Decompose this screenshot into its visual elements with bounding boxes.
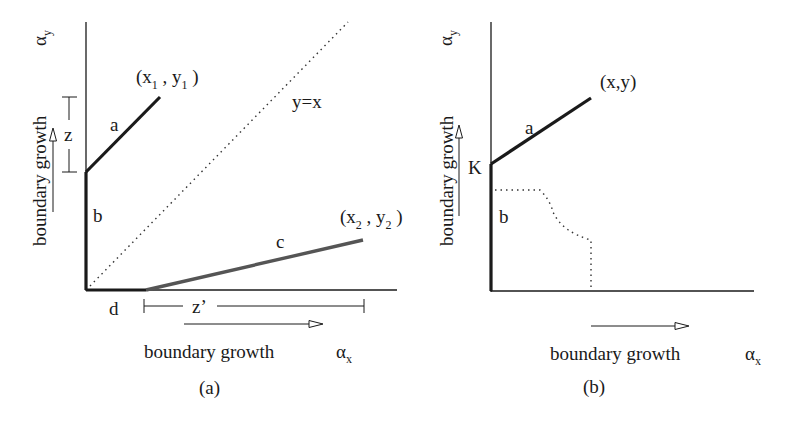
svg-text:αy: αy — [435, 30, 460, 46]
panel-a-diagonal-label: y=x — [292, 91, 322, 112]
panel-b-point-label: (x,y) — [600, 71, 636, 93]
svg-text:boundary growth: boundary growth — [436, 115, 457, 246]
panel-a-y-axis-symbol: αy — [29, 30, 54, 46]
panel-b-k-label: K — [468, 157, 482, 178]
panel-b-right-arrow-icon — [591, 323, 689, 330]
panel-a-label-b: b — [93, 205, 103, 226]
svg-text:αy: αy — [29, 30, 54, 46]
panel-a-segment-c — [146, 240, 363, 290]
panel-a-x-axis-title: boundary growth — [144, 341, 275, 362]
panel-a-up-arrow-icon — [50, 128, 57, 212]
panel-a-segment-a — [86, 97, 160, 172]
panel-a-z-label: z — [64, 124, 72, 145]
panel-b-y-axis-symbol: αy — [435, 30, 460, 46]
panel-a-y-axis-title: boundary growth — [29, 115, 50, 246]
svg-text:boundary growth: boundary growth — [29, 115, 50, 246]
panel-a-z-prime-label: z’ — [192, 296, 207, 317]
panel-b: a b K (x,y) boundary growth αy boundary … — [435, 22, 761, 398]
panel-a-label-a: a — [110, 114, 119, 135]
panel-a-label-c: c — [276, 231, 284, 252]
panel-a-z-prime-bracket — [144, 299, 364, 313]
panel-b-caption: (b) — [583, 376, 605, 398]
panel-a-diagonal-line — [90, 22, 348, 286]
panel-a-point2-label: (x2 , y2 ) — [340, 206, 403, 232]
figure: z z’ a b c d y=x (x1 , y1 ) (x2 , y2 ) — [0, 0, 785, 423]
panel-b-label-b: b — [499, 206, 509, 227]
panel-a-right-arrow-icon — [184, 321, 323, 328]
panel-a-label-d: d — [109, 298, 119, 319]
panel-b-label-a: a — [525, 117, 534, 138]
panel-b-x-axis-symbol: αx — [745, 343, 761, 368]
panel-b-segment-a — [491, 98, 591, 164]
panel-a-caption: (a) — [199, 377, 220, 399]
panel-a: z z’ a b c d y=x (x1 , y1 ) (x2 , y2 ) — [29, 22, 403, 399]
panel-a-x-axis-symbol: αx — [336, 341, 352, 366]
panel-b-x-axis-title: boundary growth — [550, 343, 681, 364]
panel-a-point1-label: (x1 , y1 ) — [136, 66, 199, 92]
panel-b-dotted-boundary — [495, 190, 591, 291]
panel-b-y-axis-title: boundary growth — [436, 115, 457, 246]
